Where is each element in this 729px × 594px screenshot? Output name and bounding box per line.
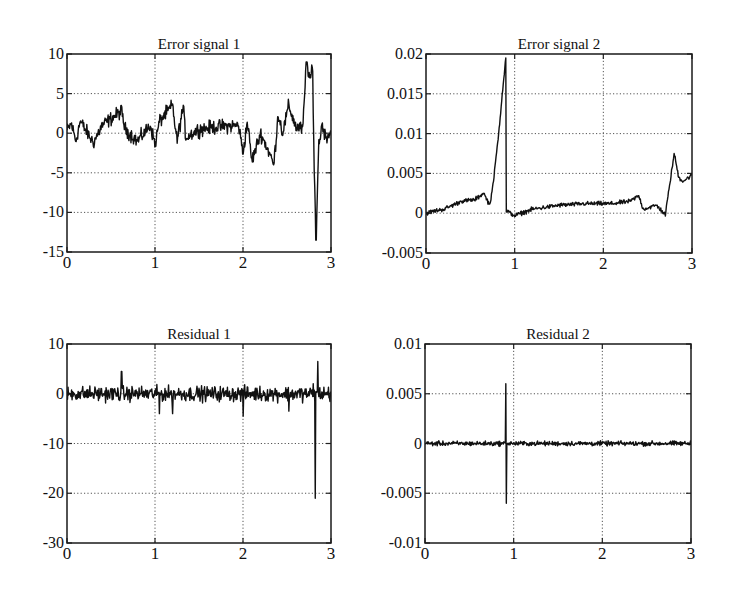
grid-lines (426, 54, 692, 253)
y-tick-label: -15 (43, 243, 64, 261)
tick-marks (67, 54, 331, 252)
subplot-error2: Error signal 20.020.0150.010.0050-0.0050… (426, 54, 692, 253)
y-tick-label: -10 (43, 435, 64, 453)
subplot-title: Residual 2 (526, 326, 590, 343)
x-tick-label: 1 (151, 544, 160, 564)
subplot-title: Residual 1 (167, 326, 231, 343)
x-tick-label: 0 (63, 544, 72, 564)
axes-frame (67, 54, 331, 252)
subplot-title: Error signal 2 (518, 36, 600, 53)
y-tick-label: -10 (43, 203, 64, 221)
tick-marks (67, 344, 331, 543)
y-tick-label: 0 (56, 124, 64, 142)
y-tick-label: -5 (51, 164, 64, 182)
x-tick-label: 3 (327, 253, 336, 273)
y-tick-label: 0.005 (387, 164, 423, 182)
y-tick-label: -20 (43, 484, 64, 502)
y-tick-label: -0.005 (381, 484, 422, 502)
x-tick-label: 2 (239, 544, 248, 564)
y-tick-label: 0.01 (394, 335, 422, 353)
y-tick-label: -0.005 (382, 244, 423, 262)
x-tick-label: 1 (151, 253, 160, 273)
subplot-title: Error signal 1 (158, 36, 240, 53)
y-tick-label: 0.01 (395, 125, 423, 143)
y-tick-label: -0.01 (389, 534, 422, 552)
x-tick-label: 0 (63, 253, 72, 273)
y-tick-label: 10 (48, 45, 64, 63)
plot-area (67, 344, 331, 543)
x-tick-label: 2 (598, 544, 607, 564)
grid-lines (67, 344, 331, 543)
x-tick-label: 3 (687, 544, 696, 564)
tick-marks (426, 54, 692, 253)
x-tick-label: 3 (688, 254, 697, 274)
y-tick-label: 0.005 (386, 385, 422, 403)
data-line (425, 384, 691, 503)
y-tick-label: -30 (43, 534, 64, 552)
axes-frame (426, 54, 692, 253)
plot-area (426, 54, 692, 253)
x-tick-label: 1 (510, 254, 519, 274)
x-tick-label: 0 (421, 544, 430, 564)
x-tick-label: 2 (239, 253, 248, 273)
x-tick-label: 3 (327, 544, 336, 564)
y-tick-label: 5 (56, 85, 64, 103)
y-tick-label: 10 (48, 335, 64, 353)
plot-area (67, 54, 331, 252)
subplot-error1: Error signal 11050-5-10-150123 (67, 54, 331, 252)
y-tick-label: 0 (56, 385, 64, 403)
subplot-residual1: Residual 1100-10-20-300123 (67, 344, 331, 543)
plot-area (425, 344, 691, 543)
grid-lines (67, 54, 331, 252)
data-line (67, 62, 331, 240)
x-tick-label: 2 (599, 254, 608, 274)
y-tick-label: 0 (414, 435, 422, 453)
data-line (426, 58, 692, 217)
x-tick-label: 0 (422, 254, 431, 274)
axes-frame (67, 344, 331, 543)
data-line (67, 361, 331, 498)
y-tick-label: 0 (415, 204, 423, 222)
subplot-residual2: Residual 20.010.0050-0.005-0.010123 (425, 344, 691, 543)
x-tick-label: 1 (509, 544, 518, 564)
y-tick-label: 0.02 (395, 45, 423, 63)
y-tick-label: 0.015 (387, 85, 423, 103)
